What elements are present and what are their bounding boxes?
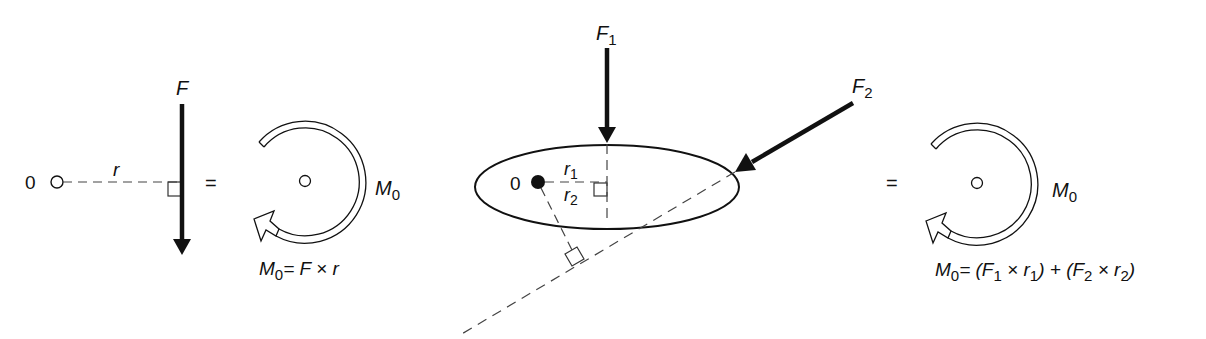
moment-arrow-icon xyxy=(254,121,366,243)
arrowhead-f1-icon xyxy=(598,127,616,143)
force-label-f2: F2 xyxy=(852,75,873,101)
force-label-f1: F1 xyxy=(596,22,617,48)
distance-label-r1: r1 xyxy=(564,159,578,182)
panel-single-force: 0 r F = M0 M0= F × r xyxy=(25,77,400,283)
formula-two-forces: M0= (F1 × r1) + (F2 × r2) xyxy=(935,259,1135,284)
equals-sign: = xyxy=(205,172,217,194)
force-label-f: F xyxy=(176,77,190,99)
pivot-label: 0 xyxy=(25,172,36,193)
pivot-point-icon xyxy=(51,176,63,188)
moment-label-2: M0 xyxy=(1052,179,1077,205)
distance-label-r: r xyxy=(113,159,120,180)
moment-arrow-icon-2 xyxy=(926,123,1038,245)
panel-two-forces: 0 r1 r2 F1 F2 = M0 xyxy=(460,22,1135,335)
pivot-point-filled-icon xyxy=(531,175,545,189)
right-angle-icon-r1 xyxy=(594,183,607,196)
moment-label: M0 xyxy=(375,177,400,203)
equals-sign-2: = xyxy=(886,172,898,194)
moment-diagram: 0 r F = M0 M0= F × r xyxy=(0,0,1206,339)
arrowhead-down-icon xyxy=(173,239,191,255)
pivot-label-2: 0 xyxy=(510,173,521,194)
force-arrow-f2 xyxy=(752,103,853,162)
formula-single: M0= F × r xyxy=(259,258,339,283)
distance-label-r2: r2 xyxy=(564,185,578,208)
